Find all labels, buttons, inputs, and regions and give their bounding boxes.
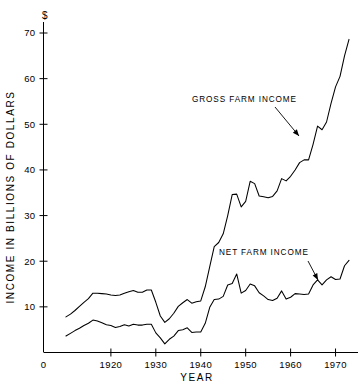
y-tick-label: 60 [24,73,35,84]
currency-marker: $ [42,10,48,21]
y-tick-label: 30 [24,210,35,221]
x-tick-label: 1960 [279,359,302,370]
line-chart-svg: $ 10203040506070 01920193019401950196019… [0,0,363,386]
x-tick-label: 1970 [324,359,347,370]
y-axis-title: INCOME IN BILLIONS OF DOLLARS [5,90,16,303]
series-annotations: GROSS FARM INCOMENET FARM INCOME [192,95,318,280]
series-annotation-label: GROSS FARM INCOME [192,95,297,104]
net-farm-income-line [66,260,349,344]
annotation-arrow-head [313,273,318,280]
x-tick-label: 1950 [234,359,257,370]
y-tick-label: 50 [24,119,35,130]
series-annotation-label: NET FARM INCOME [219,248,309,257]
x-axis-title: YEAR [180,372,214,383]
x-axis-ticks: 0192019301940195019601970 [41,349,347,370]
x-tick-label: 1930 [144,359,167,370]
x-tick-label: 1940 [189,359,212,370]
chart-container: $ 10203040506070 01920193019401950196019… [0,0,363,386]
y-tick-label: 10 [24,301,35,312]
gross-farm-income-line [66,39,349,322]
y-tick-label: 20 [24,256,35,267]
x-tick-label: 0 [41,359,47,370]
y-tick-label: 70 [24,27,35,38]
x-tick-label: 1920 [100,359,123,370]
y-tick-label: 40 [24,164,35,175]
